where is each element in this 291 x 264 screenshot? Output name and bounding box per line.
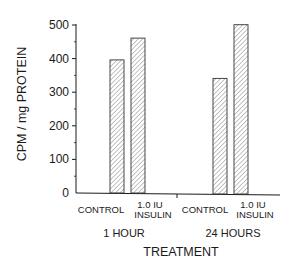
x-axis-title: TREATMENT	[143, 245, 219, 259]
y-tick-0: 0	[62, 186, 69, 200]
group-label-1-hour: 1 HOUR	[103, 227, 145, 239]
label-24h-control: CONTROL	[182, 204, 228, 215]
y-tick-300: 300	[49, 85, 69, 99]
y-tick-200: 200	[49, 119, 69, 133]
bars	[110, 25, 248, 194]
x-category-labels: CONTROL 1.0 IU INSULIN CONTROL 1.0 IU IN…	[78, 199, 274, 220]
y-tick-100: 100	[49, 152, 69, 166]
y-axis: 500 400 300 200 100 0	[49, 18, 76, 200]
label-24h-insulin-name: INSULIN	[236, 209, 274, 220]
x-axis	[76, 193, 280, 198]
bar-1h-insulin	[131, 38, 145, 193]
chart-canvas: 500 400 300 200 100 0 CONTROL 1.0 IU INS…	[0, 0, 291, 264]
label-1h-control: CONTROL	[78, 204, 124, 215]
y-tick-500: 500	[49, 18, 69, 32]
y-tick-400: 400	[49, 52, 69, 66]
bar-24h-insulin	[234, 25, 248, 194]
group-label-24-hours: 24 HOURS	[205, 227, 260, 239]
bar-24h-control	[213, 78, 227, 194]
label-1h-insulin-name: INSULIN	[134, 209, 172, 220]
bar-1h-control	[110, 60, 124, 193]
y-axis-title: CPM / mg PROTEIN	[15, 47, 29, 162]
